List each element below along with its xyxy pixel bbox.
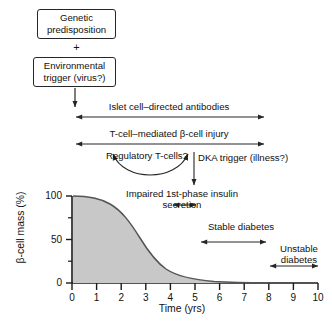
y-tick-label-100: 100 [36, 190, 62, 201]
x-tick-label-2: 2 [113, 292, 129, 303]
x-ticks [72, 283, 318, 290]
label-islet-antibodies: Islet cell–directed antibodies [73, 101, 265, 112]
x-tick-label-6: 6 [212, 292, 228, 303]
x-tick-label-8: 8 [261, 292, 277, 303]
x-tick-label-3: 3 [138, 292, 154, 303]
label-dka-trigger: DKA trigger (illness?) [198, 152, 284, 163]
y-axis-title: β-cell mass (%) [15, 180, 26, 276]
label-regulatory-tcells: Regulatory T-cells? [104, 150, 190, 161]
label-tcell-injury: T-cell–mediated β-cell injury [73, 128, 265, 139]
label-stable-diabetes: Stable diabetes [204, 221, 278, 232]
x-tick-label-7: 7 [236, 292, 252, 303]
x-axis-title: Time (yrs) [122, 303, 242, 314]
x-tick-label-4: 4 [162, 292, 178, 303]
x-tick-label-10: 10 [310, 292, 326, 303]
label-unstable-diabetes: Unstable diabetes [267, 243, 331, 266]
y-tick-label-50: 50 [36, 234, 62, 245]
x-tick-label-5: 5 [187, 292, 203, 303]
label-impaired-secretion: Impaired 1st-phase insulin secretion [122, 188, 242, 211]
x-tick-label-0: 0 [64, 292, 80, 303]
x-tick-label-9: 9 [285, 292, 301, 303]
figure-root: Genetic predisposition + Environmental t… [0, 0, 332, 322]
x-tick-label-1: 1 [89, 292, 105, 303]
y-tick-label-0: 0 [36, 277, 62, 288]
